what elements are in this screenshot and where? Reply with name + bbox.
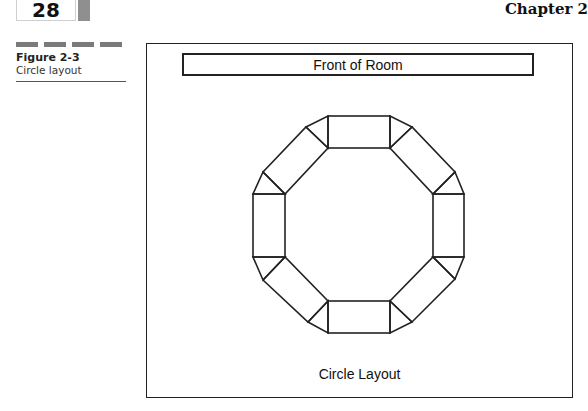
table-top-left [253,116,328,194]
table-bottom-left [253,257,328,333]
table-top [328,116,390,148]
circle-table-layout [0,0,588,411]
table-right [433,194,464,257]
table-bottom [328,301,390,333]
layout-title: Circle Layout [146,366,573,382]
table-left [253,194,285,257]
table-top-right [390,116,464,194]
table-bottom-right [390,257,464,333]
